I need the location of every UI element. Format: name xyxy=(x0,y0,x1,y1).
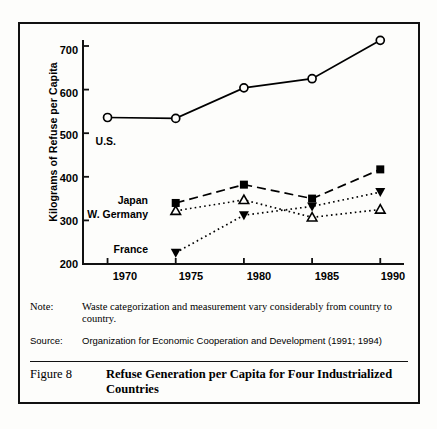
figure-caption: Figure 8 Refuse Generation per Capita fo… xyxy=(20,367,418,397)
chart-axes xyxy=(83,40,404,264)
note-text: Waste categorization and measurement var… xyxy=(82,301,408,326)
figure-number: Figure 8 xyxy=(30,367,106,397)
chart-series-markers xyxy=(104,36,386,257)
chart-area: Kilograms of Refuse per Capita 700 600 5… xyxy=(20,24,418,292)
chart-series-lines xyxy=(108,40,381,252)
notes-block: Note: Waste categorization and measureme… xyxy=(20,292,418,402)
note-row: Note: Waste categorization and measureme… xyxy=(20,301,418,326)
caption-divider xyxy=(30,361,408,362)
source-row: Source: Organization for Economic Cooper… xyxy=(20,335,418,346)
chart-plot xyxy=(20,24,418,292)
figure-container: Kilograms of Refuse per Capita 700 600 5… xyxy=(18,22,420,404)
source-key: Source: xyxy=(30,335,82,346)
source-text: Organization for Economic Cooperation an… xyxy=(82,335,408,346)
note-key: Note: xyxy=(30,301,82,326)
figure-title: Refuse Generation per Capita for Four In… xyxy=(106,367,408,397)
